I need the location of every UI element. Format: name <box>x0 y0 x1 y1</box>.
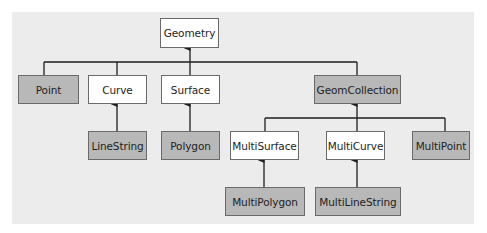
node-linestring: LineString <box>88 131 147 160</box>
node-multilinestring: MultiLineString <box>315 187 401 216</box>
node-polygon: Polygon <box>161 131 220 160</box>
node-multipoint: MultiPoint <box>412 131 470 160</box>
node-geometry: Geometry <box>160 18 219 48</box>
node-multisurface: MultiSurface <box>230 131 299 160</box>
node-surface: Surface <box>161 75 220 104</box>
node-multicurve: MultiCurve <box>326 131 385 160</box>
node-point: Point <box>18 75 79 104</box>
node-geomcollection: GeomCollection <box>314 75 401 104</box>
node-curve: Curve <box>88 75 147 104</box>
node-multipolygon: MultiPolygon <box>225 187 305 216</box>
